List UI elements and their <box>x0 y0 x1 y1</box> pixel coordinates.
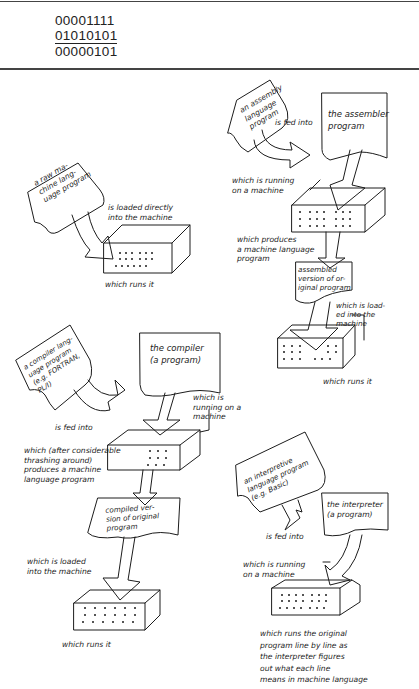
interpreter-action-label: is fed into <box>266 532 304 542</box>
interpreter-machine-box-icon <box>272 580 360 615</box>
assembled-card-label: assembled version of or- iginal program <box>298 265 351 292</box>
compiler-card-label: the compiler (a program) <box>150 342 204 366</box>
raw-machine-box-icon <box>104 225 190 273</box>
interpretive-feed-arrow-icon <box>282 500 302 530</box>
raw-action-label: is loaded directly into the machine <box>108 203 173 222</box>
assembled-machine-box-icon <box>278 325 355 368</box>
assembler-card-label: the assembler program <box>328 108 389 132</box>
interpreter-arrow-icon <box>325 535 362 585</box>
compiler-feed-arrow-icon <box>74 380 125 411</box>
assembly-produces-arrow-icon <box>318 232 345 268</box>
raw-load-arrow-icon <box>72 212 113 259</box>
assembly-produces-label: which produces a machine language progra… <box>237 235 314 264</box>
compiled-card-label: compiled ver- sion of original program <box>105 502 160 533</box>
interpreter-result-label: which runs the original program line by … <box>260 628 368 686</box>
assembly-result-label: which runs it <box>323 377 372 387</box>
interpreter-running-note: which is running on a machine <box>243 560 305 579</box>
compiled-load-note: which is loaded into the machine <box>27 557 91 576</box>
compiler-running-note: which is running on a machine <box>193 393 241 422</box>
assembled-load-arrow-icon <box>290 302 338 350</box>
raw-result-label: which runs it <box>105 280 154 290</box>
compiler-produces-arrow-icon <box>133 470 157 505</box>
compiler-produces-label: which (after considerable thrashing arou… <box>24 446 121 484</box>
compiled-load-arrow-icon <box>103 537 140 600</box>
assembled-load-note: which is load- ed into the machine <box>336 301 385 328</box>
compiler-arrow-icon <box>143 393 180 435</box>
compiler-action-label: is fed into <box>55 423 93 433</box>
assembly-action-label: is fed into <box>275 118 313 128</box>
interpreter-card-label: the interpreter (a program) <box>327 500 383 519</box>
compiler-machine-box-icon <box>108 430 200 470</box>
assembler-running-note: which is running on a machine <box>232 176 294 195</box>
compiler-result-label: which runs it <box>62 640 111 650</box>
assembly-feed-arrow-icon <box>254 130 310 168</box>
